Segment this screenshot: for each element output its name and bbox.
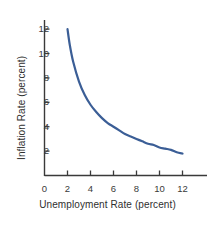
phillips-curve-chart: 024681012 24681012 Unemployment Rate (pe…	[0, 0, 215, 227]
y-tick-label: 2	[44, 146, 49, 156]
phillips-curve-line	[68, 29, 183, 153]
x-tick-label: 6	[111, 184, 116, 194]
y-tick-label: 12	[38, 24, 49, 34]
x-tick-label: 0	[42, 184, 47, 194]
y-tick-label: 10	[38, 49, 49, 59]
x-tick-label: 10	[154, 184, 165, 194]
y-tick-label: 4	[44, 122, 49, 132]
x-tick-label: 4	[88, 184, 93, 194]
x-tick-label: 8	[134, 184, 139, 194]
y-axis-title: Inflation Rate (percent)	[16, 56, 27, 160]
y-tick-label: 8	[44, 73, 49, 83]
x-axis-tick-marks	[68, 171, 183, 176]
y-tick-label: 6	[44, 98, 49, 108]
x-tick-label: 12	[177, 184, 188, 194]
x-tick-label: 2	[65, 184, 70, 194]
x-axis-title: Unemployment Rate (percent)	[0, 199, 215, 210]
